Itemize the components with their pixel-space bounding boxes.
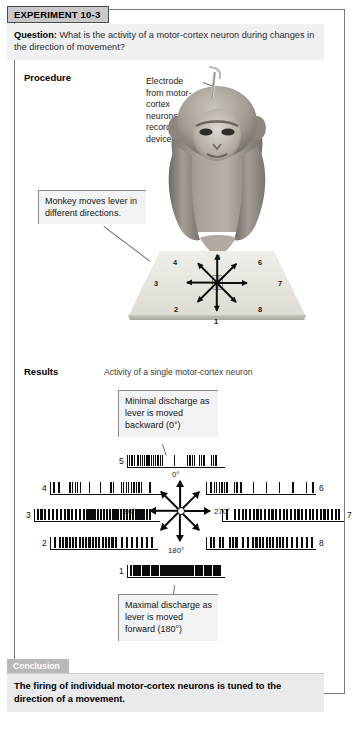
spike-train-2 [50,537,158,550]
spike [331,509,333,520]
monkey-svg [150,72,285,272]
conclusion-text: The firing of individual motor-cortex ne… [7,673,324,712]
spike [215,455,216,466]
spike [89,482,90,493]
angle-label-90: 90° [124,507,136,516]
spike [301,537,303,548]
platform-arrow-3 [187,282,217,284]
spike [264,509,266,520]
experiment-figure: EXPERIMENT 10-3 Question: What is the ac… [0,0,360,738]
spike [247,537,249,548]
spike [253,509,255,520]
procedure-label: Procedure [24,72,71,83]
spike [222,537,224,548]
spike [64,509,66,520]
spike [166,565,168,576]
spike [266,537,268,548]
spike [160,455,161,466]
platform-number-6: 6 [258,258,262,267]
spike [69,537,71,548]
spike [85,537,87,548]
spike [242,509,244,520]
spike [216,482,217,493]
spike [131,537,133,548]
spike [291,537,293,548]
spike [139,565,141,576]
spike [134,455,135,466]
spike [327,509,329,520]
spike [234,509,236,520]
spike [56,509,58,520]
spike [338,509,340,520]
spike [79,537,81,548]
spike [255,537,257,548]
spike [192,565,194,576]
spike [142,455,143,466]
spike [115,537,117,548]
spike [126,537,128,548]
spike [86,509,88,520]
spike [113,482,114,493]
spike [121,537,123,548]
spike [275,509,277,520]
spike [271,509,273,520]
monkey-illustration [150,72,285,272]
raster-label-8: 8 [319,539,324,547]
spike [54,537,56,548]
spike [141,537,143,548]
lever-callout: Monkey moves lever in different directio… [38,190,146,224]
compass-hub [177,507,185,515]
spike [75,509,77,520]
maximal-discharge-callout: Maximal discharge as lever is moved forw… [118,594,218,641]
spike [210,565,212,576]
spike-train-1 [127,565,225,578]
spike [226,482,227,493]
spike [75,482,76,493]
monkey-face [193,109,241,161]
spike [48,509,50,520]
spike [75,537,77,548]
spike [174,565,176,576]
spike [312,482,313,493]
spike [269,537,271,548]
spike [146,455,147,466]
platform-number-3: 3 [154,279,158,288]
spike [203,455,204,466]
raster-row-8: 8 [206,537,324,550]
spike [88,509,90,520]
results-subtitle: Activity of a single motor-cortex neuron [104,367,253,377]
spike [130,565,132,576]
spike [238,509,240,520]
spike [262,537,264,548]
spike [162,455,163,466]
spike [83,509,85,520]
spike [103,509,105,520]
spike [59,537,61,548]
raster-row-4: 4 [42,482,162,495]
spike [82,537,84,548]
spike [140,509,142,520]
spike [97,509,99,520]
spike [67,509,69,520]
spike [279,509,281,520]
spike [77,482,78,493]
spike [249,509,251,520]
spike [143,509,145,520]
spike [148,455,149,466]
spike [133,482,134,493]
spike [320,509,322,520]
spike [297,509,299,520]
spike [256,509,258,520]
spike [106,509,108,520]
spike [155,455,156,466]
spike [282,537,284,548]
spike [58,482,59,493]
spike [294,509,296,520]
spike [52,509,54,520]
spike [219,537,221,548]
question-block: Question: What is the activity of a moto… [7,24,324,60]
spike [174,455,175,466]
spike [201,455,202,466]
raster-row-6: 6 [206,482,324,495]
spike [69,482,70,493]
